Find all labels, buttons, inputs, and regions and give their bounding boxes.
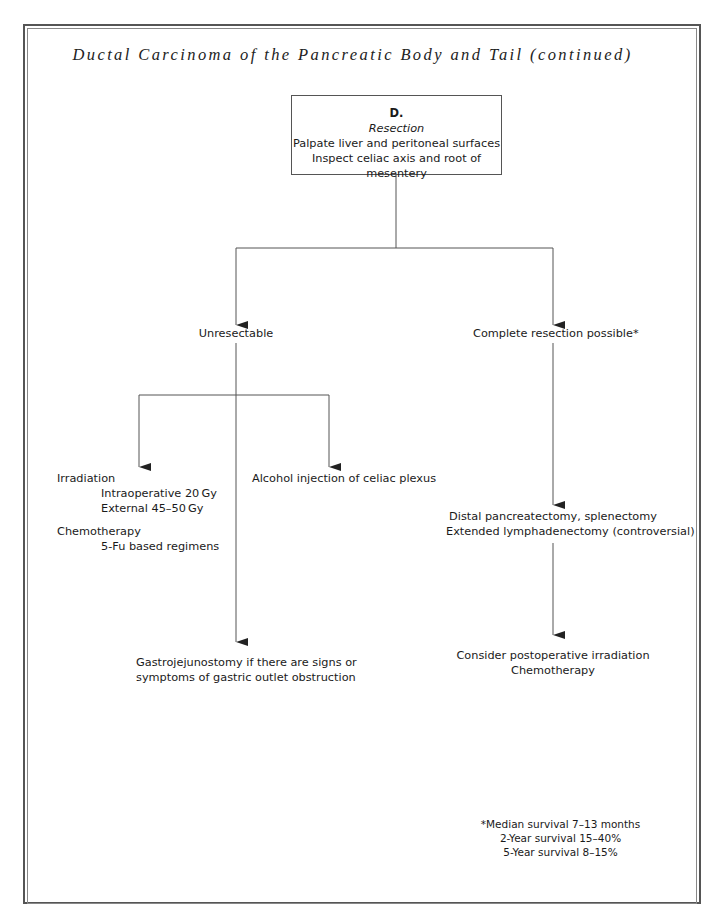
gastrojejunostomy-node: Gastrojejunostomy if there are signs or …: [136, 655, 336, 685]
chemotherapy-heading: Chemotherapy: [57, 524, 219, 539]
box-letter: D.: [292, 106, 501, 121]
box-line-1: Palpate liver and peritoneal surfaces: [292, 136, 501, 151]
survival-footnote: *Median survival 7–13 months 2-Year surv…: [478, 817, 643, 859]
alcohol-injection-node: Alcohol injection of celiac plexus: [252, 471, 436, 486]
footnote-line-3: 5-Year survival 8–15%: [478, 845, 643, 859]
gastro-line-1: Gastrojejunostomy if there are signs or: [136, 655, 336, 670]
postoperative-node: Consider postoperative irradiation Chemo…: [456, 648, 650, 678]
resection-decision-box: D. Resection Palpate liver and peritonea…: [291, 95, 502, 175]
box-line-2: Inspect celiac axis and root of mesenter…: [292, 151, 501, 181]
surgery-line-1: Distal pancreatectomy, splenectomy: [446, 509, 660, 524]
irradiation-item: Intraoperative 20 Gy: [57, 486, 219, 501]
irradiation-heading: Irradiation: [57, 471, 219, 486]
irradiation-item: External 45–50 Gy: [57, 501, 219, 516]
surgery-line-2: Extended lymphadenectomy (controversial): [446, 524, 660, 539]
gastro-line-2: symptoms of gastric outlet obstruction: [136, 670, 336, 685]
surgery-node: Distal pancreatectomy, splenectomy Exten…: [446, 509, 660, 539]
complete-resection-node: Complete resection possible*: [473, 326, 633, 341]
chemotherapy-item: 5-Fu based regimens: [57, 539, 219, 554]
box-subtitle: Resection: [292, 121, 501, 136]
postop-line-1: Consider postoperative irradiation: [456, 648, 650, 663]
unresectable-node: Unresectable: [176, 326, 296, 341]
irradiation-node: Irradiation Intraoperative 20 Gy Externa…: [57, 471, 219, 554]
postop-line-2: Chemotherapy: [456, 663, 650, 678]
footnote-line-1: *Median survival 7–13 months: [478, 817, 643, 831]
footnote-line-2: 2-Year survival 15–40%: [478, 831, 643, 845]
